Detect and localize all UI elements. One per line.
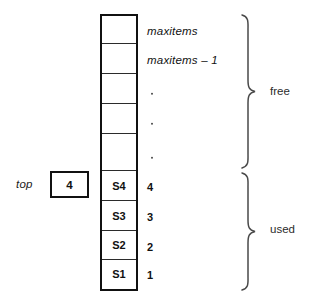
free-brace [240, 14, 256, 169]
array-cell-empty [102, 16, 136, 44]
stack-array: S4S3S2S1 [100, 14, 138, 291]
used-brace [240, 172, 256, 291]
array-cell-empty [102, 74, 136, 104]
free-brace-label: free [270, 85, 290, 97]
array-index-label: 3 [147, 211, 153, 223]
array-cell-empty [102, 104, 136, 134]
array-cell-empty [102, 134, 136, 171]
ellipsis-dot [151, 93, 153, 95]
array-index-label: 1 [147, 269, 153, 281]
array-index-label: 2 [147, 241, 153, 253]
array-cell-s3: S3 [102, 201, 136, 231]
array-index-label: maxitems [147, 25, 198, 37]
array-cell-s1: S1 [102, 260, 136, 287]
top-pointer-label: top [16, 178, 33, 190]
ellipsis-dot [151, 123, 153, 125]
array-cell-s2: S2 [102, 231, 136, 260]
top-pointer-value: 4 [52, 173, 87, 196]
top-pointer-box: 4 [50, 171, 89, 198]
stack-array-diagram: top 4 S4S3S2S1 maxitemsmaxitems – 14321 … [0, 0, 309, 308]
used-brace-label: used [270, 223, 295, 235]
array-cell-s4: S4 [102, 171, 136, 201]
array-index-label: 4 [147, 181, 153, 193]
ellipsis-dot [151, 156, 153, 158]
array-index-label: maxitems – 1 [147, 54, 218, 66]
array-cell-empty [102, 44, 136, 74]
